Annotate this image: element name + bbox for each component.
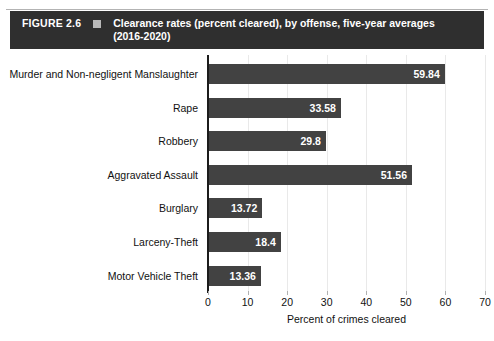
x-tick-label: 60 bbox=[440, 296, 452, 308]
bar-value-label: 29.8 bbox=[300, 131, 320, 151]
figure-header-banner: FIGURE 2.6 Clearance rates (percent clea… bbox=[10, 11, 484, 49]
bar: 13.36 bbox=[208, 266, 261, 286]
bar-value-label: 13.36 bbox=[230, 266, 256, 286]
x-tick-label: 30 bbox=[321, 296, 333, 308]
bar: 18.4 bbox=[208, 232, 281, 252]
x-axis-ticks: 010203040506070 bbox=[208, 291, 485, 307]
y-axis-category-labels: Murder and Non-negligent ManslaughterRap… bbox=[0, 55, 202, 291]
x-tick-label: 40 bbox=[360, 296, 372, 308]
y-axis-label: Burglary bbox=[159, 198, 198, 218]
tick-mark bbox=[248, 291, 249, 295]
bar: 29.8 bbox=[208, 131, 326, 151]
tick-mark bbox=[485, 291, 486, 295]
x-tick-label: 0 bbox=[205, 296, 211, 308]
y-axis-label: Motor Vehicle Theft bbox=[108, 266, 198, 286]
plot-grid-and-bars: 59.8433.5829.851.5613.7218.413.36 bbox=[208, 55, 485, 291]
tick-mark bbox=[445, 291, 446, 295]
square-marker-icon bbox=[93, 20, 101, 28]
gridline bbox=[485, 55, 486, 291]
x-tick-label: 20 bbox=[281, 296, 293, 308]
y-axis-label: Robbery bbox=[158, 131, 198, 151]
figure-title-line-2: (2016-2020) bbox=[113, 30, 435, 43]
bar-value-label: 13.72 bbox=[231, 198, 257, 218]
x-tick-label: 50 bbox=[400, 296, 412, 308]
tick-mark bbox=[406, 291, 407, 295]
bar-value-label: 18.4 bbox=[255, 232, 275, 252]
x-axis-title: Percent of crimes cleared bbox=[208, 313, 485, 325]
bar-value-label: 59.84 bbox=[414, 64, 440, 84]
tick-mark bbox=[327, 291, 328, 295]
x-tick-label: 70 bbox=[479, 296, 491, 308]
bar-value-label: 33.58 bbox=[310, 98, 336, 118]
bar: 13.72 bbox=[208, 198, 262, 218]
bar: 33.58 bbox=[208, 98, 341, 118]
figure-title-line-1: Clearance rates (percent cleared), by of… bbox=[113, 17, 435, 29]
y-axis-line bbox=[207, 55, 209, 293]
figure-title: Clearance rates (percent cleared), by of… bbox=[113, 17, 445, 43]
bar: 51.56 bbox=[208, 165, 412, 185]
y-axis-label: Murder and Non-negligent Manslaughter bbox=[9, 64, 198, 84]
y-axis-label: Aggravated Assault bbox=[108, 165, 198, 185]
x-tick-label: 10 bbox=[242, 296, 254, 308]
bar-chart: Murder and Non-negligent ManslaughterRap… bbox=[0, 55, 494, 341]
gridline bbox=[445, 55, 446, 291]
tick-mark bbox=[287, 291, 288, 295]
bar: 59.84 bbox=[208, 64, 445, 84]
figure-number-label: FIGURE 2.6 bbox=[10, 17, 81, 30]
bar-value-label: 51.56 bbox=[381, 165, 407, 185]
tick-mark bbox=[366, 291, 367, 295]
y-axis-label: Larceny-Theft bbox=[133, 232, 198, 252]
scan-artifact-line bbox=[6, 9, 488, 10]
tick-mark bbox=[208, 291, 209, 295]
y-axis-label: Rape bbox=[173, 98, 198, 118]
